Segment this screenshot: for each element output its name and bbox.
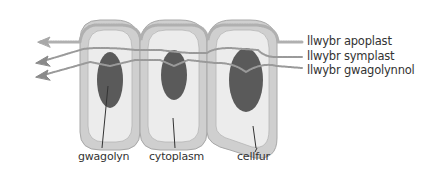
label-cytoplasm: cytoplasm — [149, 150, 204, 163]
arrow-head-icon — [36, 70, 50, 80]
vacuole — [229, 48, 263, 112]
vacuole — [97, 52, 123, 108]
arrow-head-icon — [36, 56, 50, 66]
label-vacuole: gwagolyn — [78, 150, 129, 163]
cell-1 — [80, 20, 140, 150]
cell-3 — [207, 20, 277, 158]
label-vacuolar-pathway: llwybr gwagolynnol — [307, 63, 415, 77]
label-symplast-pathway: llwybr symplast — [307, 49, 394, 63]
vacuole — [161, 50, 187, 100]
label-apoplast-pathway: llwybr apoplast — [307, 34, 392, 48]
water-pathways-diagram — [0, 0, 432, 172]
label-cell-wall: cellfur — [237, 150, 270, 163]
